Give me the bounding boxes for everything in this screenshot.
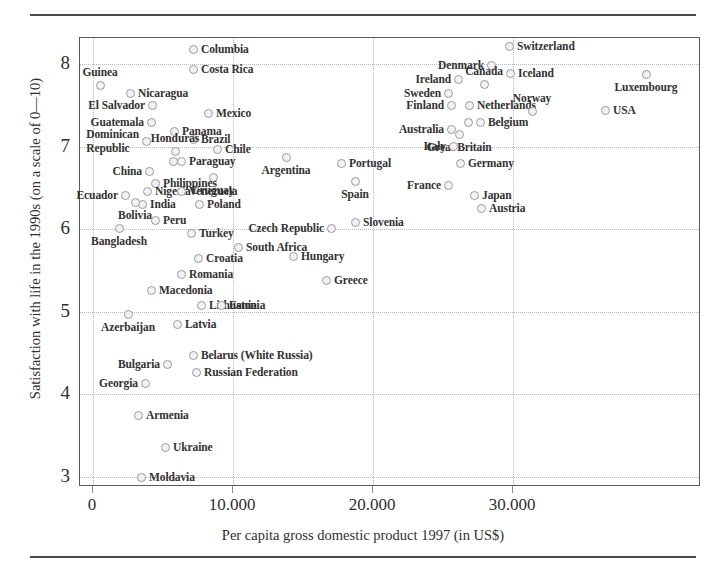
data-point-label: USA	[613, 104, 636, 116]
data-point[interactable]	[115, 224, 124, 233]
data-point[interactable]	[169, 157, 178, 166]
data-point-label: Switzerland	[517, 40, 575, 52]
data-point-label: Iceland	[518, 67, 554, 79]
data-point-label: Costa Rica	[201, 63, 253, 75]
data-point[interactable]	[148, 101, 157, 110]
data-point-label: Greece	[334, 274, 368, 286]
data-point[interactable]	[161, 443, 170, 452]
data-point-label: Honduras	[151, 132, 199, 144]
y-tick-label-3: 3	[48, 466, 70, 485]
data-point[interactable]	[147, 118, 156, 127]
data-point-label: Azerbaijan	[101, 321, 155, 333]
data-point[interactable]	[465, 101, 474, 110]
data-point-label: Italy	[423, 140, 446, 152]
data-point-label: India	[150, 198, 176, 210]
data-point[interactable]	[134, 411, 143, 420]
data-point[interactable]	[195, 200, 204, 209]
data-point[interactable]	[322, 276, 331, 285]
data-point[interactable]	[137, 473, 146, 482]
data-point-label: Moldavia	[149, 471, 195, 483]
data-point[interactable]	[282, 153, 291, 162]
data-point[interactable]	[327, 224, 336, 233]
data-point-label: Mexico	[216, 107, 251, 119]
data-point-label: Slovenia	[363, 216, 404, 228]
data-point[interactable]	[528, 107, 537, 116]
data-point-label: Ireland	[415, 73, 451, 85]
data-point[interactable]	[464, 118, 473, 127]
data-point[interactable]	[197, 301, 206, 310]
data-point[interactable]	[204, 109, 213, 118]
data-point[interactable]	[449, 142, 458, 151]
data-point[interactable]	[189, 65, 198, 74]
data-point[interactable]	[337, 159, 346, 168]
data-point[interactable]	[177, 187, 186, 196]
data-point[interactable]	[289, 252, 298, 261]
data-point[interactable]	[143, 187, 152, 196]
data-point[interactable]	[151, 216, 160, 225]
data-point-label: Japan	[482, 189, 512, 201]
data-point[interactable]	[351, 218, 360, 227]
data-point-label: Belgium	[488, 116, 528, 128]
y-tick-label-8: 8	[48, 53, 70, 72]
x-tick-label-20000: 20.000	[349, 496, 396, 513]
data-point-label: Bulgaria	[118, 358, 160, 370]
data-point[interactable]	[477, 204, 486, 213]
data-point[interactable]	[124, 310, 133, 319]
data-point[interactable]	[444, 181, 453, 190]
x-axis-title: Per capita gross domestic product 1997 (…	[0, 527, 726, 544]
data-point[interactable]	[217, 301, 226, 310]
data-point[interactable]	[141, 379, 150, 388]
data-point-label: El Salvador	[88, 99, 145, 111]
gridline-x-20000	[373, 38, 374, 485]
data-point[interactable]	[177, 270, 186, 279]
data-point-label: France	[407, 179, 441, 191]
data-point-label: Norway	[513, 92, 551, 104]
data-point[interactable]	[145, 167, 154, 176]
data-point[interactable]	[476, 118, 485, 127]
data-point[interactable]	[189, 45, 198, 54]
data-point[interactable]	[96, 81, 105, 90]
data-point[interactable]	[601, 106, 610, 115]
data-point-label: Romania	[189, 268, 233, 280]
data-point[interactable]	[142, 137, 151, 146]
data-point[interactable]	[480, 80, 489, 89]
data-point[interactable]	[642, 70, 651, 79]
data-point[interactable]	[171, 147, 180, 156]
data-point[interactable]	[505, 42, 514, 51]
x-tick-30000	[512, 486, 513, 493]
data-point[interactable]	[454, 75, 463, 84]
data-point[interactable]	[447, 125, 456, 134]
data-point[interactable]	[192, 368, 201, 377]
data-point[interactable]	[189, 351, 198, 360]
data-point[interactable]	[351, 177, 360, 186]
data-point[interactable]	[194, 254, 203, 263]
gridline-y-8	[80, 64, 699, 65]
data-point-label: Turkey	[199, 227, 234, 239]
data-point[interactable]	[455, 130, 464, 139]
data-point-label: Argentina	[262, 164, 311, 176]
data-point[interactable]	[177, 157, 186, 166]
data-point[interactable]	[126, 89, 135, 98]
data-point-label: Latvia	[185, 318, 216, 330]
data-point[interactable]	[187, 229, 196, 238]
data-point[interactable]	[506, 69, 515, 78]
data-point-label: Ecuador	[77, 189, 118, 201]
data-point-label: Luxembourg	[615, 81, 678, 93]
data-point[interactable]	[131, 198, 140, 207]
data-point[interactable]	[213, 145, 222, 154]
data-point[interactable]	[470, 191, 479, 200]
data-point[interactable]	[163, 360, 172, 369]
data-point[interactable]	[121, 191, 130, 200]
data-point-label: Australia	[399, 123, 444, 135]
data-point-label: Paraguay	[189, 155, 235, 167]
data-point[interactable]	[447, 101, 456, 110]
data-point[interactable]	[456, 159, 465, 168]
data-point[interactable]	[173, 320, 182, 329]
x-tick-label-10000: 10.000	[209, 496, 256, 513]
data-point[interactable]	[444, 89, 453, 98]
data-point-label: Poland	[207, 198, 241, 210]
x-tick-label-30000: 30.000	[489, 496, 536, 513]
data-point[interactable]	[147, 286, 156, 295]
data-point[interactable]	[234, 243, 243, 252]
data-point-label: South Africa	[246, 241, 307, 253]
